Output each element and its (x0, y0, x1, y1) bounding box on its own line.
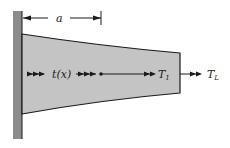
dimension-a: a (23, 11, 101, 25)
tapered-bar-diagram: a t(x) T1 TL (0, 0, 230, 148)
arrow-left-icon (23, 16, 31, 21)
dimension-label: a (56, 12, 63, 25)
arrow-right-icon (93, 16, 101, 21)
fixed-wall (13, 11, 22, 139)
end-load-label: TL (207, 68, 219, 82)
load-label: t(x) (52, 68, 71, 81)
double-arrow-icon (196, 72, 202, 77)
